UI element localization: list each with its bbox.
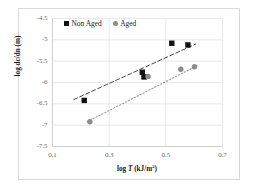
x-tick-label: 0.1	[42, 151, 64, 159]
y-axis-title: log dc/dn (m)	[14, 14, 22, 98]
x-tick-label: 0.7	[212, 151, 234, 159]
trendlines	[74, 44, 198, 122]
legend-label: Non Aged	[72, 20, 102, 27]
x-tick-label: 0.5	[155, 151, 177, 159]
y-tick-label: -6.5	[26, 99, 48, 107]
y-tick-label: -7.5	[26, 142, 48, 150]
legend-label: Aged	[120, 20, 136, 27]
data-point-aged	[145, 74, 150, 79]
y-tick-label: -4.5	[26, 14, 48, 22]
data-point-non-aged	[185, 42, 190, 47]
legend-marker-square-icon	[64, 21, 69, 26]
data-point-aged	[192, 64, 197, 69]
data-point-aged	[178, 67, 183, 72]
y-tick-label: -7	[26, 121, 48, 129]
chart-canvas	[0, 0, 258, 188]
x-axis-title: log T (kJ/m2)	[52, 164, 222, 173]
x-axis-title-close: )	[155, 165, 157, 173]
legend-item-non-aged: Non Aged	[64, 20, 102, 27]
y-tick-label: -5.5	[26, 57, 48, 65]
x-tick-label: 0.3	[98, 151, 120, 159]
trendline-non-aged	[74, 44, 196, 99]
data-point-non-aged	[82, 98, 87, 103]
y-tick-label: -6	[26, 78, 48, 86]
data-point-non-aged	[169, 41, 174, 46]
x-axis-title-prefix: log	[117, 165, 128, 173]
x-axis-title-units: (kJ/m	[132, 165, 152, 173]
data-point-aged	[87, 119, 92, 124]
chart-legend: Non AgedAged	[64, 20, 136, 27]
data-point-non-aged	[140, 70, 145, 75]
y-tick-label: -5	[26, 35, 48, 43]
legend-item-aged: Aged	[113, 20, 137, 27]
legend-marker-circle-icon	[113, 21, 118, 26]
gridlines	[53, 19, 223, 147]
figure-container: -4.5-5-5.5-6-6.5-7-7.5 0.10.30.50.7 log …	[0, 0, 258, 188]
